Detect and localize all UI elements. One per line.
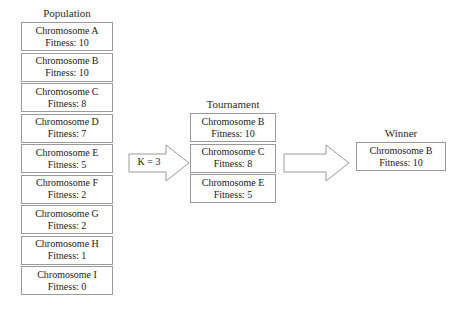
chromosome-fitness: Fitness: 5 xyxy=(214,189,253,201)
chromosome-name: Chromosome E xyxy=(202,177,265,189)
chromosome-name: Chromosome F xyxy=(36,177,98,189)
population-item-5: Chromosome F Fitness: 2 xyxy=(21,175,113,204)
tournament-selection-diagram: Population Chromosome A Fitness: 10 Chro… xyxy=(0,0,455,313)
chromosome-name: Chromosome D xyxy=(35,116,99,128)
chromosome-fitness: Fitness: 10 xyxy=(45,67,89,79)
chromosome-fitness: Fitness: 1 xyxy=(48,250,87,262)
chromosome-name: Chromosome H xyxy=(35,238,99,250)
chromosome-fitness: Fitness: 8 xyxy=(48,98,87,110)
population-item-6: Chromosome G Fitness: 2 xyxy=(21,205,113,234)
chromosome-name: Chromosome G xyxy=(35,208,99,220)
chromosome-fitness: Fitness: 10 xyxy=(211,128,255,140)
population-heading: Population xyxy=(21,7,113,20)
chromosome-fitness: Fitness: 8 xyxy=(214,158,253,170)
population-item-3: Chromosome D Fitness: 7 xyxy=(21,114,113,143)
population-item-2: Chromosome C Fitness: 8 xyxy=(21,83,113,112)
tournament-item-1: Chromosome C Fitness: 8 xyxy=(190,144,276,173)
winner-item-0: Chromosome B Fitness: 10 xyxy=(356,142,446,171)
winner-heading: Winner xyxy=(356,127,446,140)
chromosome-name: Chromosome C xyxy=(201,146,264,158)
population-item-0: Chromosome A Fitness: 10 xyxy=(21,22,113,51)
chromosome-fitness: Fitness: 2 xyxy=(48,189,87,201)
selection-arrow-label: K = 3 xyxy=(128,156,170,168)
chromosome-fitness: Fitness: 7 xyxy=(48,128,87,140)
chromosome-fitness: Fitness: 5 xyxy=(48,159,87,171)
population-item-8: Chromosome I Fitness: 0 xyxy=(21,266,113,295)
tournament-item-0: Chromosome B Fitness: 10 xyxy=(190,113,276,142)
chromosome-name: Chromosome B xyxy=(201,116,264,128)
winner-block-arrow-icon xyxy=(283,144,350,182)
tournament-item-2: Chromosome E Fitness: 5 xyxy=(190,174,276,203)
population-item-1: Chromosome B Fitness: 10 xyxy=(21,53,113,82)
tournament-heading: Tournament xyxy=(190,98,276,111)
population-item-4: Chromosome E Fitness: 5 xyxy=(21,144,113,173)
chromosome-name: Chromosome B xyxy=(35,55,98,67)
chromosome-fitness: Fitness: 10 xyxy=(45,37,89,49)
chromosome-name: Chromosome E xyxy=(36,147,99,159)
chromosome-name: Chromosome I xyxy=(37,269,97,281)
population-item-7: Chromosome H Fitness: 1 xyxy=(21,236,113,265)
chromosome-name: Chromosome B xyxy=(369,145,432,157)
chromosome-fitness: Fitness: 10 xyxy=(379,157,423,169)
chromosome-fitness: Fitness: 0 xyxy=(48,281,87,293)
chromosome-name: Chromosome C xyxy=(35,86,98,98)
chromosome-name: Chromosome A xyxy=(35,25,98,37)
chromosome-fitness: Fitness: 2 xyxy=(48,220,87,232)
